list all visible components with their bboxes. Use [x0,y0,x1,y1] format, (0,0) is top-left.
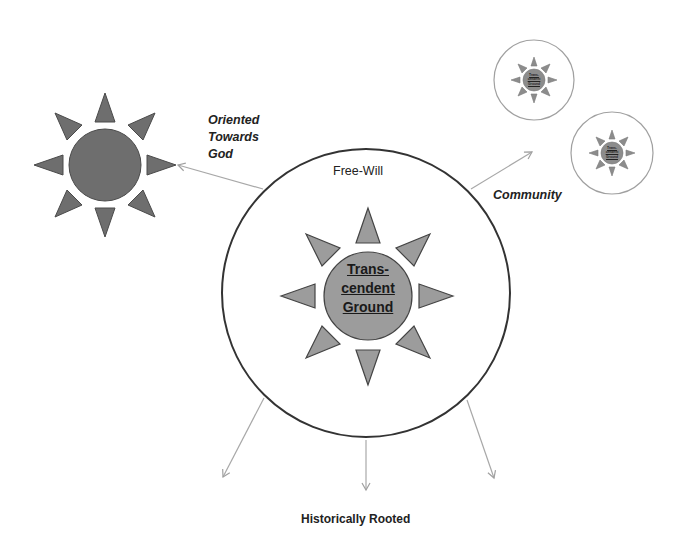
oriented-line-3: God [208,146,259,163]
center-label-line-3: Ground [324,298,412,317]
historically-rooted-label: Historically Rooted [301,513,410,525]
oriented-line-1: Oriented [208,112,259,129]
oriented-line-2: Towards [208,129,259,146]
center-label-line-1: Trans- [324,260,412,279]
oriented-towards-god-label: Oriented Towards God [208,112,259,163]
historically-rooted-arrow-right [467,400,494,478]
transcendent-ground-label: Trans- cendent Ground [324,260,412,317]
community-label: Community [493,189,562,202]
free-will-label: Free-Will [333,165,383,178]
mini-sun-label-2: Trans- cendent Ground [603,146,621,159]
mini-sun-label-1: Trans- cendent Ground [525,73,543,86]
mini-label-line: cendent [525,77,543,81]
mini-label-line: cendent [603,150,621,154]
mini-label-line: Ground [525,82,543,86]
god-sun-icon [34,93,176,237]
mini-label-line: Ground [603,155,621,159]
historically-rooted-arrow-left [223,398,264,477]
center-label-line-2: cendent [324,279,412,298]
community-arrow [471,152,532,189]
oriented-towards-god-arrow [178,165,263,189]
diagram-canvas: Oriented Towards God Free-Will Community… [0,0,690,552]
